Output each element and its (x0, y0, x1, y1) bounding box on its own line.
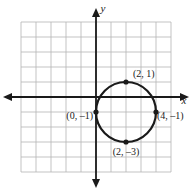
point-label-top: (2, 1) (133, 68, 155, 80)
point-marker-left (93, 109, 98, 114)
x-axis-label: x (181, 94, 187, 106)
x-axis-arrow-left (3, 93, 12, 101)
point-label-right: (4, –1) (157, 110, 184, 122)
point-label-bottom: (2, –3) (113, 146, 140, 158)
coordinate-plane-figure: x y (2, 1) (4, –1) (2, –3) (0, –1) (0, 0, 195, 190)
y-axis-arrow-down (92, 179, 100, 188)
y-axis-arrow-up (92, 8, 100, 17)
point-label-left: (0, –1) (66, 110, 93, 122)
y-axis-label: y (100, 2, 106, 14)
point-marker-bottom (123, 139, 128, 144)
graph-canvas: x y (2, 1) (4, –1) (2, –3) (0, –1) (0, 0, 195, 190)
point-marker-top (123, 79, 128, 84)
